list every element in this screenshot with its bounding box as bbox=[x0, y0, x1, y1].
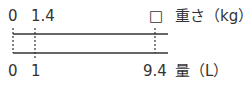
top-tick-1-4: 1.4 bbox=[31, 9, 55, 24]
unknown-box: □ bbox=[149, 9, 163, 24]
bottom-line-label: 量（L） bbox=[175, 64, 228, 79]
bottom-tick-1: 1 bbox=[31, 64, 41, 79]
bottom-tick-9-4: 9.4 bbox=[143, 64, 167, 79]
bottom-tick-0: 0 bbox=[8, 64, 18, 79]
top-tick-0: 0 bbox=[8, 9, 18, 24]
top-line-label: 重さ（kg） bbox=[175, 9, 246, 24]
